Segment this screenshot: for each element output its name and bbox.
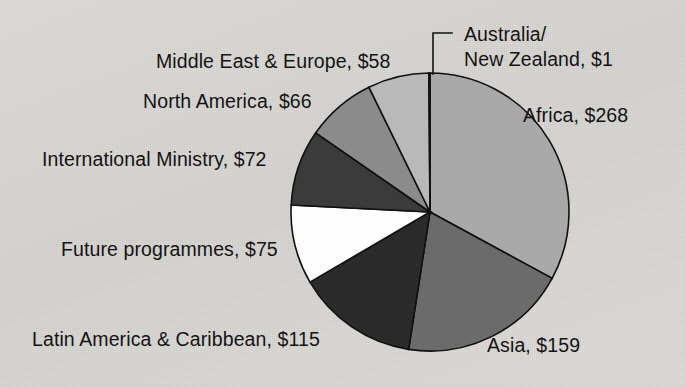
pie-label-north-america: North America, $66 (143, 90, 312, 113)
pie-label-international-ministry: International Ministry, $72 (42, 148, 267, 171)
pie-label-australia-new-zealand-line1: Australia/ (464, 22, 613, 47)
pie-label-middle-east-europe: Middle East & Europe, $58 (156, 50, 390, 73)
pie-label-asia: Asia, $159 (487, 334, 580, 357)
pie-chart-figure: Africa, $268Asia, $159Latin America & Ca… (0, 0, 685, 387)
pie-label-africa: Africa, $268 (523, 104, 628, 127)
pie-label-latin-america-caribbean: Latin America & Caribbean, $115 (32, 328, 320, 351)
pie-slice-australia-new-zealand[interactable] (429, 73, 430, 212)
australia-nz-leader-line (433, 33, 452, 74)
pie-label-future-programmes: Future programmes, $75 (61, 238, 278, 261)
pie-label-australia-new-zealand: Australia/New Zealand, $1 (464, 22, 613, 72)
pie-label-australia-new-zealand-line2: New Zealand, $1 (464, 47, 613, 72)
